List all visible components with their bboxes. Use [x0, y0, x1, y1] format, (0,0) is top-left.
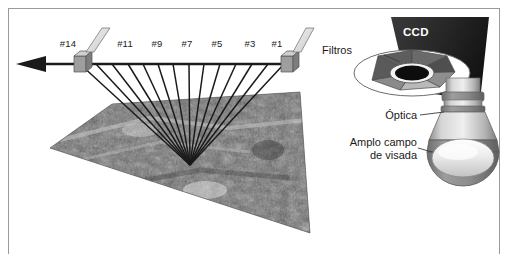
filter-aperture [395, 66, 429, 81]
scan-tick-label-1: #1 [272, 38, 283, 49]
ccd-label: CCD [403, 26, 429, 38]
ccd-instrument-diagram: CCD [322, 17, 499, 186]
orbit-axis-arrow [16, 56, 292, 72]
filtros-label: Filtros [322, 44, 352, 56]
field-of-view-label-line2: de visada [370, 149, 418, 161]
scan-tick-label-3: #3 [245, 38, 256, 49]
field-of-view-label-line1: Amplo campo [350, 136, 417, 148]
swath-scan-diagram: #14 #11 #9 #7 #5 #3 #1 [16, 28, 325, 240]
optica-label: Óptica [385, 109, 418, 121]
scan-tick-label-11: #11 [117, 38, 133, 49]
scan-marker-end [281, 28, 314, 72]
scan-tick-label-14: #14 [60, 38, 76, 49]
scan-marker-start [74, 28, 110, 72]
scan-tick-label-5: #5 [212, 38, 223, 49]
scan-tick-label-9: #9 [152, 38, 163, 49]
terrain-image [40, 85, 325, 240]
scan-tick-label-7: #7 [182, 38, 193, 49]
